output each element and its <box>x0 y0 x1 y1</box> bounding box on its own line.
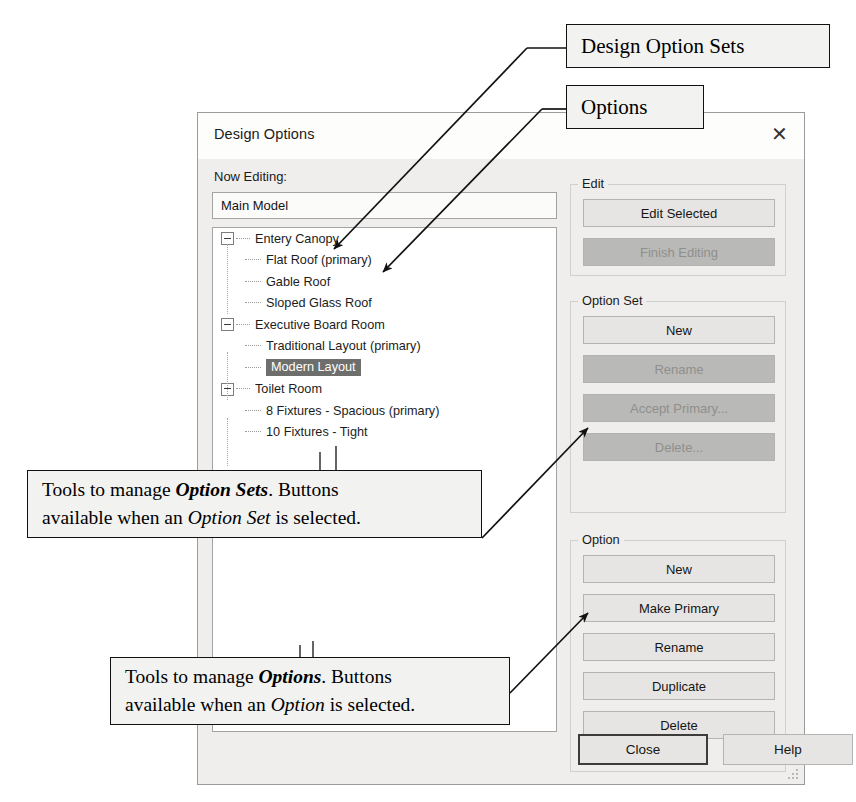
tree-item-label: Entery Canopy <box>255 232 339 246</box>
option-rename-button[interactable]: Rename <box>583 633 775 661</box>
tree-option-set-row[interactable]: Entery Canopy <box>213 228 556 250</box>
option-duplicate-button[interactable]: Duplicate <box>583 672 775 700</box>
tree-connector-line <box>245 431 261 433</box>
tree-item-label: Traditional Layout (primary) <box>266 339 421 353</box>
group-title: Option <box>578 532 624 547</box>
group-edit: EditEdit SelectedFinish Editing <box>570 184 786 276</box>
now-editing-field[interactable]: Main Model <box>212 192 557 219</box>
dialog-footer: Close Help <box>198 722 804 784</box>
callout-options-tools-line1: Tools to manage Options. Buttons <box>125 663 495 691</box>
callout-design-option-sets: Design Option Sets <box>566 24 830 68</box>
option-make-primary-button[interactable]: Make Primary <box>583 594 775 622</box>
callout-options-text: Options <box>581 95 703 120</box>
option-set-new-button[interactable]: New <box>583 316 775 344</box>
option-set-accept-primary-button: Accept Primary... <box>583 394 775 422</box>
tree-vertical-connector <box>227 418 229 466</box>
callout-options: Options <box>566 85 704 129</box>
edit-edit-selected-button[interactable]: Edit Selected <box>583 199 775 227</box>
tree-item-label: Modern Layout <box>266 359 361 376</box>
edit-finish-editing-button: Finish Editing <box>583 238 775 266</box>
tree-option-row[interactable]: Traditional Layout (primary) <box>213 336 556 358</box>
tree-connector-line <box>245 367 261 369</box>
tree-connector-line <box>245 281 261 283</box>
tree-connector-line <box>236 238 250 240</box>
group-title: Option Set <box>578 293 646 308</box>
close-x-icon[interactable]: ✕ <box>764 120 794 148</box>
tree-item-label: 8 Fixtures - Spacious (primary) <box>266 404 439 418</box>
tree-vertical-connector <box>227 244 229 314</box>
dialog-title: Design Options <box>214 126 315 142</box>
tree-connector-line <box>245 259 261 261</box>
callout-options-tools: Tools to manage Options. Buttons availab… <box>110 657 510 725</box>
tree-connector-line <box>236 324 250 326</box>
callout-design-option-sets-text: Design Option Sets <box>581 34 829 59</box>
callout-option-sets-tools-line2: available when an Option Set is selected… <box>42 504 467 532</box>
help-button[interactable]: Help <box>723 734 853 765</box>
tree-item-label: Toilet Room <box>255 382 322 396</box>
tree-item-label: Gable Roof <box>266 275 330 289</box>
tree-connector-line <box>236 388 250 390</box>
tree-option-row[interactable]: Flat Roof (primary) <box>213 250 556 272</box>
tree-option-row[interactable]: 8 Fixtures - Spacious (primary) <box>213 400 556 422</box>
callout-option-sets-tools-line1: Tools to manage Option Sets. Buttons <box>42 476 467 504</box>
tree-option-set-row[interactable]: Toilet Room <box>213 379 556 401</box>
tree-option-set-row[interactable]: Executive Board Room <box>213 314 556 336</box>
close-button[interactable]: Close <box>578 734 708 765</box>
group-title: Edit <box>578 176 608 191</box>
group-option-set: Option SetNewRenameAccept Primary...Dele… <box>570 301 786 513</box>
option-set-rename-button: Rename <box>583 355 775 383</box>
tree-option-row[interactable]: Modern Layout <box>213 357 556 379</box>
tree-item-label: 10 Fixtures - Tight <box>266 425 368 439</box>
option-new-button[interactable]: New <box>583 555 775 583</box>
tree-item-label: Flat Roof (primary) <box>266 253 372 267</box>
tree-option-row[interactable]: 10 Fixtures - Tight <box>213 422 556 444</box>
tree-item-label: Executive Board Room <box>255 318 385 332</box>
dialog-titlebar: Design Options ✕ <box>198 113 804 159</box>
now-editing-value: Main Model <box>221 198 288 213</box>
tree-vertical-connector <box>227 352 229 400</box>
tree-connector-line <box>245 302 261 304</box>
resize-grip-icon[interactable] <box>787 768 800 781</box>
now-editing-label: Now Editing: <box>214 169 287 184</box>
callout-options-tools-line2: available when an Option is selected. <box>125 691 495 719</box>
tree-connector-line <box>245 345 261 347</box>
tree-connector-line <box>245 410 261 412</box>
tree-option-row[interactable]: Sloped Glass Roof <box>213 293 556 315</box>
expander-collapse-icon[interactable] <box>221 318 234 331</box>
tree-item-label: Sloped Glass Roof <box>266 296 372 310</box>
tree-option-row[interactable]: Gable Roof <box>213 271 556 293</box>
callout-option-sets-tools: Tools to manage Option Sets. Buttons ava… <box>27 470 482 538</box>
option-set-delete-button: Delete... <box>583 433 775 461</box>
